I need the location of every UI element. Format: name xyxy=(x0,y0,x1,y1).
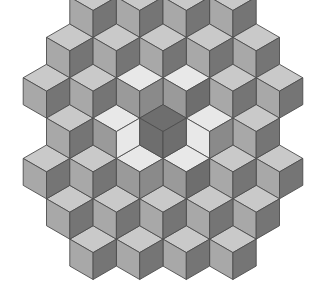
tessellation-figure xyxy=(0,0,328,288)
tessellation-canvas xyxy=(0,0,328,288)
